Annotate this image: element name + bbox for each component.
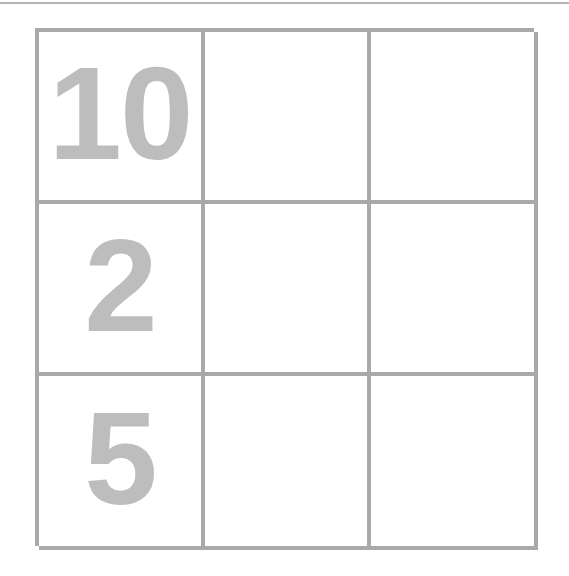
grid-cell-r1c3[interactable]: [371, 32, 538, 204]
grid-cell-value: 5: [84, 393, 155, 525]
grid-cell-value: 10: [49, 48, 192, 180]
number-grid: 10 2 5: [35, 28, 534, 546]
grid-cell-r3c2[interactable]: [205, 376, 371, 550]
grid-cell-r2c2[interactable]: [205, 204, 371, 376]
grid-cell-r2c1[interactable]: 2: [39, 204, 205, 376]
grid-cell-r3c3[interactable]: [371, 376, 538, 550]
grid-cell-r2c3[interactable]: [371, 204, 538, 376]
grid-cell-r1c2[interactable]: [205, 32, 371, 204]
top-divider-rule: [0, 2, 569, 4]
grid-cell-value: 2: [84, 220, 155, 352]
number-grid-container: 10 2 5: [35, 28, 534, 546]
grid-cell-r3c1[interactable]: 5: [39, 376, 205, 550]
grid-cell-r1c1[interactable]: 10: [39, 32, 205, 204]
